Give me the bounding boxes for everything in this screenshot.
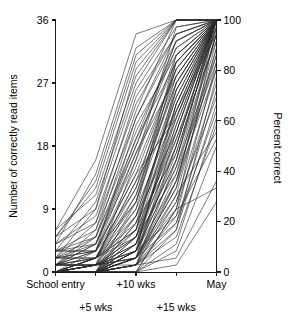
left-axis-ticks: 09182736 <box>37 14 56 278</box>
right-tick-label: 20 <box>224 215 236 227</box>
left-tick-label: 18 <box>37 140 49 152</box>
x-axis-category-label: May <box>207 278 228 290</box>
x-axis-category-label: +5 wks <box>79 301 112 313</box>
x-axis-category-label: School entry <box>26 278 85 290</box>
right-axis-ticks: 020406080100 <box>217 14 242 278</box>
x-axis-labels: School entry+5 wks+10 wks+15 wksMay <box>26 278 227 313</box>
left-axis-title: Number of correctly read items <box>7 74 19 218</box>
reading-trajectory-chart: 09182736 020406080100 School entry+5 wks… <box>0 0 291 331</box>
series-line <box>56 97 217 272</box>
left-tick-label: 9 <box>43 203 49 215</box>
right-tick-label: 0 <box>224 266 230 278</box>
x-axis-category-label: +10 wks <box>117 278 156 290</box>
x-axis-category-label: +15 wks <box>157 301 196 313</box>
right-axis-title: Percent correct <box>272 112 284 183</box>
right-tick-label: 80 <box>224 64 236 76</box>
right-tick-label: 40 <box>224 165 236 177</box>
figure-panel: 09182736 020406080100 School entry+5 wks… <box>0 0 291 331</box>
left-tick-label: 27 <box>37 77 49 89</box>
left-tick-label: 36 <box>37 14 49 26</box>
left-tick-label: 0 <box>43 266 49 278</box>
series-lines-group <box>56 20 217 272</box>
right-tick-label: 100 <box>224 14 242 26</box>
right-tick-label: 60 <box>224 115 236 127</box>
